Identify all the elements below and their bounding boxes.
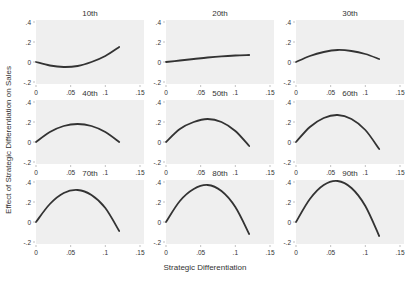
x-tick-label: .15 [395,169,404,176]
x-tick-label: .1 [363,89,369,96]
x-tick-label: 0 [294,169,298,176]
x-tick-label: .15 [265,169,274,176]
panel-30th: 30th-.20.2.40.05.1.15 [283,9,404,96]
y-tick-label: .2 [26,39,32,46]
x-tick-label: .15 [395,89,404,96]
x-tick-label: .1 [233,249,239,256]
small-multiples-chart: 10th-.20.2.40.05.1.1520th-.20.2.40.05.1.… [0,0,410,284]
x-tick-label: .1 [363,169,369,176]
panel-title: 30th [342,9,358,18]
panel-80th: 80th-.20.2.40.05.1.15 [153,169,274,256]
plot-area [36,100,144,164]
y-tick-label: .2 [286,199,292,206]
x-tick-label: 0 [34,89,38,96]
y-tick-label: .4 [286,179,292,186]
x-tick-label: .15 [395,249,404,256]
x-tick-label: .15 [265,249,274,256]
panel-title: 20th [212,9,228,18]
y-tick-label: -.2 [283,239,291,246]
panel-40th: 40th-.20.2.40.05.1.15 [23,89,144,176]
y-tick-label: .4 [156,99,162,106]
y-tick-label: 0 [27,59,31,66]
x-tick-label: 0 [164,89,168,96]
panel-70th: 70th-.20.2.40.05.1.15 [23,169,144,256]
y-tick-label: .4 [156,179,162,186]
x-tick-label: .05 [66,89,75,96]
panel-title: 40th [82,89,98,98]
y-tick-label: -.2 [283,159,291,166]
y-tick-label: -.2 [153,159,161,166]
y-tick-label: 0 [27,219,31,226]
x-tick-label: .15 [135,169,144,176]
panel-50th: 50th-.20.2.40.05.1.15 [153,89,274,176]
x-tick-label: .15 [135,249,144,256]
plot-area [296,100,404,164]
x-tick-label: .05 [196,169,205,176]
x-tick-label: .1 [103,89,109,96]
y-tick-label: -.2 [283,79,291,86]
x-tick-label: 0 [164,249,168,256]
y-tick-label: .2 [26,119,32,126]
y-tick-label: .2 [286,119,292,126]
x-tick-label: .05 [196,89,205,96]
x-tick-label: .15 [135,89,144,96]
plot-area [296,180,404,244]
y-tick-label: 0 [157,219,161,226]
x-tick-label: .15 [265,89,274,96]
y-axis-label: Effect of Strategic Differentiation on S… [2,40,14,240]
y-tick-label: -.2 [23,79,31,86]
x-tick-label: .1 [233,89,239,96]
y-tick-label: .4 [286,99,292,106]
y-tick-label: .2 [156,119,162,126]
panel-10th: 10th-.20.2.40.05.1.15 [23,9,144,96]
plot-area [36,20,144,84]
x-tick-label: .1 [103,249,109,256]
y-tick-label: .4 [26,99,32,106]
y-tick-label: 0 [27,139,31,146]
y-tick-label: -.2 [153,79,161,86]
y-tick-label: .2 [156,39,162,46]
x-tick-label: .05 [196,249,205,256]
y-tick-label: .4 [26,179,32,186]
x-tick-label: .1 [103,169,109,176]
x-tick-label: .05 [326,89,335,96]
panel-title: 60th [342,89,358,98]
y-tick-label: .2 [286,39,292,46]
panel-90th: 90th-.20.2.40.05.1.15 [283,169,404,256]
y-tick-label: .2 [26,199,32,206]
y-tick-label: 0 [287,219,291,226]
x-axis-label: Strategic Differentiation [0,263,410,272]
panel-title: 70th [82,169,98,178]
panel-20th: 20th-.20.2.40.05.1.15 [153,9,274,96]
y-tick-label: .4 [26,19,32,26]
y-tick-label: 0 [157,139,161,146]
plot-area [166,100,274,164]
x-tick-label: .1 [233,169,239,176]
x-tick-label: .05 [326,169,335,176]
y-tick-label: .4 [286,19,292,26]
panel-title: 50th [212,89,228,98]
y-tick-label: -.2 [23,239,31,246]
x-tick-label: 0 [294,249,298,256]
panel-60th: 60th-.20.2.40.05.1.15 [283,89,404,176]
y-tick-label: -.2 [153,239,161,246]
panel-title: 90th [342,169,358,178]
x-tick-label: 0 [294,89,298,96]
y-tick-label: 0 [157,59,161,66]
x-tick-label: 0 [34,249,38,256]
x-tick-label: .1 [363,249,369,256]
x-tick-label: .05 [326,249,335,256]
x-tick-label: 0 [34,169,38,176]
plot-area [36,180,144,244]
y-tick-label: .4 [156,19,162,26]
x-tick-label: .05 [66,249,75,256]
plot-area [166,20,274,84]
y-axis-label-text: Effect of Strategic Differentiation on S… [4,66,13,214]
y-tick-label: -.2 [23,159,31,166]
y-tick-label: 0 [287,139,291,146]
y-tick-label: .2 [156,199,162,206]
panel-title: 10th [82,9,98,18]
y-tick-label: 0 [287,59,291,66]
x-tick-label: 0 [164,169,168,176]
x-tick-label: .05 [66,169,75,176]
